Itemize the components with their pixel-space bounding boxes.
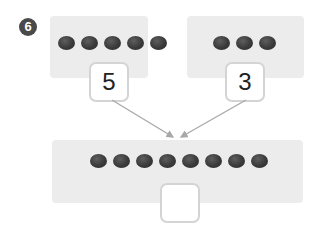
combined-dots	[90, 154, 268, 168]
answer-box[interactable]	[160, 183, 200, 223]
counter-dot-icon	[251, 154, 268, 168]
left-arrow-icon	[112, 100, 173, 137]
right-arrow-icon	[181, 100, 246, 137]
counter-dot-icon	[159, 154, 176, 168]
counter-dot-icon	[182, 154, 199, 168]
counter-dot-icon	[228, 154, 245, 168]
counter-dot-icon	[205, 154, 222, 168]
counter-dot-icon	[90, 154, 107, 168]
counter-dot-icon	[113, 154, 130, 168]
counter-dot-icon	[136, 154, 153, 168]
